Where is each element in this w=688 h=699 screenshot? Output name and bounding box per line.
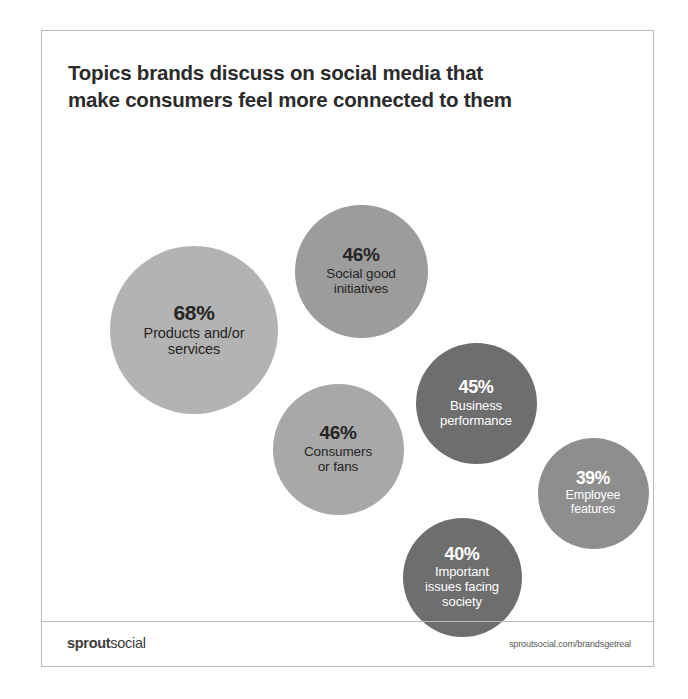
bubble-value: 46% — [342, 245, 379, 266]
bubble-value: 39% — [576, 469, 610, 488]
bubble-label-line: services — [144, 341, 245, 358]
bubble-label-line: Consumers — [304, 444, 372, 460]
bubble-label-line: features — [566, 502, 621, 517]
sproutsocial-logo: sproutsocial — [67, 635, 146, 651]
bubble-employee-features: 39%Employeefeatures — [538, 438, 649, 549]
bubble-label: Social goodinitiatives — [320, 266, 401, 297]
bubble-value: 45% — [458, 378, 493, 397]
bubble-important-issues-facing-society: 40%Importantissues facingsociety — [403, 518, 522, 637]
bubble-label-line: Products and/or — [144, 325, 245, 342]
bubble-label-line: initiatives — [326, 281, 395, 297]
logo-word-social: social — [110, 635, 145, 651]
bubble-business-performance: 45%Businessperformance — [416, 343, 537, 464]
bubble-label: Importantissues facingsociety — [419, 564, 505, 609]
bubble-label-line: Employee — [566, 488, 621, 503]
bubble-label-line: performance — [440, 413, 512, 428]
bubble-label-line: society — [425, 594, 499, 609]
infographic-card: Topics brands discuss on social media th… — [41, 30, 654, 667]
bubble-label-line: Business — [440, 398, 512, 413]
bubble-value: 40% — [444, 545, 479, 564]
bubble-value: 46% — [319, 423, 356, 444]
bubble-social-good-initiatives: 46%Social goodinitiatives — [295, 205, 428, 338]
bubble-products-services: 68%Products and/orservices — [110, 246, 278, 414]
page-title-line-2: make consumers feel more connected to th… — [68, 86, 628, 113]
bubble-consumers-or-fans: 46%Consumersor fans — [273, 384, 404, 515]
bubble-value: 68% — [173, 302, 214, 325]
footer-url: sproutsocial.com/brandsgetreal — [509, 639, 631, 649]
footer: sproutsocial sproutsocial.com/brandsgetr… — [42, 621, 653, 666]
bubble-label: Consumersor fans — [298, 444, 378, 475]
bubble-label-line: or fans — [304, 459, 372, 475]
bubble-label: Products and/orservices — [138, 325, 251, 359]
bubble-label: Businessperformance — [434, 398, 518, 428]
bubble-chart: 68%Products and/orservices46%Social good… — [42, 135, 653, 622]
logo-word-sprout: sprout — [67, 635, 110, 651]
bubble-label-line: issues facing — [425, 579, 499, 594]
bubble-label-line: Important — [425, 564, 499, 579]
page-title-line-1: Topics brands discuss on social media th… — [68, 59, 628, 86]
bubble-label-line: Social good — [326, 266, 395, 282]
bubble-label: Employeefeatures — [560, 488, 627, 517]
page-title: Topics brands discuss on social media th… — [68, 59, 628, 113]
